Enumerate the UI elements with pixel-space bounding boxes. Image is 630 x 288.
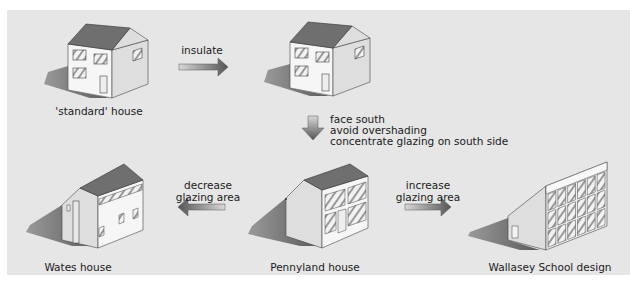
window	[94, 54, 107, 64]
glazing-pane	[568, 202, 576, 221]
building-side-wall	[508, 186, 546, 250]
glazing-pane	[548, 209, 556, 228]
glazing-pane	[558, 187, 566, 206]
glazing-pane	[578, 198, 586, 217]
door	[322, 74, 329, 91]
gable-vent	[285, 198, 287, 200]
wallasey-school-label: Wallasey School design	[489, 261, 612, 273]
south-label-line-3: concentrate glazing on south side	[330, 135, 508, 147]
glazing-pane	[558, 206, 566, 225]
wallasey-school-illustration	[468, 162, 607, 250]
glazing-pane	[597, 172, 605, 191]
pennyland-house-label: Pennyland house	[270, 261, 360, 273]
door	[73, 201, 79, 243]
decrease-label-line-1: decrease	[184, 179, 232, 191]
glazing-pane	[587, 176, 595, 195]
standard-house-illustration	[44, 24, 148, 98]
increase-label-line-1: increase	[406, 179, 450, 191]
window	[73, 50, 86, 60]
pennyland-house-illustration	[248, 164, 368, 248]
door	[100, 76, 107, 93]
house-side-wall	[286, 180, 322, 248]
diagram-graphics	[0, 0, 630, 288]
glazing-pane	[587, 194, 595, 213]
door	[512, 226, 518, 238]
standard-house-label: 'standard' house	[55, 105, 142, 117]
wates-house-label: Wates house	[44, 261, 111, 273]
glazing-pane	[578, 216, 586, 235]
glazing-pane	[578, 180, 586, 199]
window	[67, 205, 70, 211]
insulate-arrow	[179, 58, 228, 76]
window	[295, 48, 308, 58]
house-side-wall	[62, 188, 98, 248]
south-arrow	[302, 116, 324, 140]
glazing-pane	[568, 220, 576, 239]
window	[316, 52, 329, 62]
glazing-pane	[548, 191, 556, 210]
window	[73, 68, 86, 78]
window	[325, 212, 336, 234]
wates-house-illustration	[26, 164, 143, 248]
window	[133, 208, 138, 219]
window	[99, 226, 104, 237]
increase-label-line-2: glazing area	[396, 191, 461, 203]
glazing-pane	[597, 208, 605, 227]
decrease-label-line-2: glazing area	[176, 191, 241, 203]
glazing-pane	[587, 212, 595, 231]
glazing-pane	[597, 190, 605, 209]
glazing-pane	[548, 228, 556, 247]
insulated-house-illustration	[264, 22, 370, 96]
window	[119, 213, 124, 224]
insulate-label: insulate	[181, 44, 223, 56]
glazing-pane	[558, 224, 566, 243]
door	[338, 209, 346, 233]
window	[295, 66, 308, 76]
glazing-pane	[568, 183, 576, 202]
